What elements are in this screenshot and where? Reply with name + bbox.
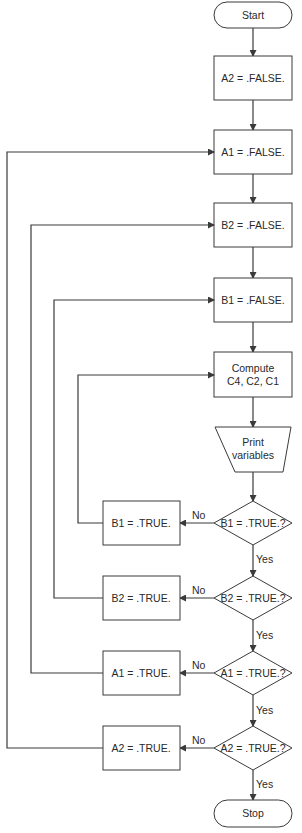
decision-b1-true: B1 = .TRUE.? [214,501,292,545]
stop-label: Stop [242,807,264,819]
process-b1-true: B1 = .TRUE. [103,501,180,545]
process-compute: Compute C4, C2, C1 [214,352,292,397]
process-a1-false: A1 = .FALSE. [214,130,292,174]
compute-label-line2: C4, C2, C1 [227,375,279,387]
process-a2-false: A2 = .FALSE. [214,56,292,100]
decision-a2-true: A2 = .TRUE.? [214,726,292,770]
yes-label-a2: Yes [256,778,273,790]
start-label: Start [242,9,264,21]
yes-label-b1: Yes [256,553,273,565]
decision-a1-label: A1 = .TRUE.? [220,667,285,679]
decision-a2-label: A2 = .TRUE.? [220,742,285,754]
print-label-line2: variables [232,449,274,461]
decision-b1-label: B1 = .TRUE.? [220,517,285,529]
no-label-b2: No [192,584,206,596]
stop-terminal: Stop [214,800,292,827]
print-label-line1: Print [242,436,264,448]
no-label-b1: No [192,509,206,521]
a1-false-label: A1 = .FALSE. [221,146,284,158]
a2-true-label: A2 = .TRUE. [111,742,170,754]
b2-false-label: B2 = .FALSE. [221,219,284,231]
decision-b2-true: B2 = .TRUE.? [214,576,292,620]
start-terminal: Start [214,2,292,28]
compute-label-line1: Compute [232,362,275,374]
process-b2-false: B2 = .FALSE. [214,203,292,247]
decision-b2-label: B2 = .TRUE.? [220,592,285,604]
process-a2-true: A2 = .TRUE. [103,726,180,770]
flowchart: Start A2 = .FALSE. A1 = .FALSE. B2 = .FA… [0,0,302,833]
process-a1-true: A1 = .TRUE. [103,651,180,695]
no-label-a2: No [192,734,206,746]
a1-true-label: A1 = .TRUE. [111,667,170,679]
no-label-a1: No [192,659,206,671]
b2-true-label: B2 = .TRUE. [111,592,170,604]
yes-label-a1: Yes [256,704,273,716]
process-b2-true: B2 = .TRUE. [103,576,180,620]
process-b1-false: B1 = .FALSE. [214,278,292,322]
b1-false-label: B1 = .FALSE. [221,294,284,306]
a2-false-label: A2 = .FALSE. [221,72,284,84]
output-print-variables: Print variables [215,427,291,472]
b1-true-label: B1 = .TRUE. [111,517,170,529]
yes-label-b2: Yes [256,629,273,641]
decision-a1-true: A1 = .TRUE.? [214,651,292,695]
